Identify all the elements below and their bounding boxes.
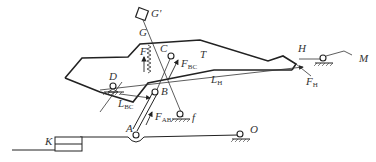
frame-t-lower [65,70,292,102]
label-fbc: FBC [180,57,197,71]
support-f [171,111,190,122]
label-fab: FAB [154,110,172,124]
label-f: F [139,45,147,57]
label-g: G [139,26,147,38]
pin-c [168,53,174,59]
lh-dimension-line [100,67,303,90]
line-m [326,51,352,56]
label-f-lower: f [192,111,197,123]
label-d: D [108,70,117,82]
label-o: O [250,123,258,135]
label-fh: FH [305,75,318,89]
link-ab-right [137,94,157,131]
pin-b [152,89,158,95]
pin-a [133,132,139,138]
support-o [231,131,250,142]
base-line-right [144,135,238,137]
label-a: A [125,122,133,134]
spring-icon [147,45,151,73]
force-fab-arrow [146,112,152,125]
support-h [314,55,333,66]
label-m: M [358,52,369,64]
block-k [55,137,82,151]
label-k: K [44,135,53,147]
lbc-dimension-line [120,94,150,98]
label-b: B [161,85,168,97]
label-lh: LH [210,73,222,87]
link-g-f [143,20,183,117]
label-h: H [297,42,307,54]
mechanism-diagram: G' G C T F FBC H M D LH FH LBC B f FAB A… [0,0,376,162]
label-g-prime: G' [151,7,162,19]
label-t: T [200,48,207,60]
label-c: C [160,42,168,54]
block-g-prime [136,8,149,21]
